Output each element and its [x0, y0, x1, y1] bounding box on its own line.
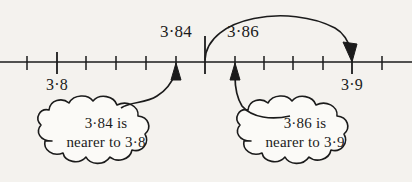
- right-callout-line2: nearer to 3·9: [265, 133, 344, 152]
- major-tick-group: [57, 36, 352, 74]
- left-callout-pointer: [121, 74, 175, 108]
- rounding-arc-arrowhead: [343, 42, 357, 62]
- left-callout-line2: nearer to 3·8: [66, 133, 145, 152]
- tick-label-3-9: 3·9: [341, 76, 363, 94]
- left-callout-arrowhead: [171, 63, 181, 80]
- right-callout-arrowhead: [230, 63, 240, 80]
- tick-label-3-8: 3·8: [46, 76, 68, 94]
- right-callout-line1: 3·86 is: [284, 115, 327, 131]
- right-callout-text: 3·86 is nearer to 3·9: [265, 114, 344, 152]
- value-label-3-84: 3·84: [160, 22, 192, 42]
- left-callout-line1: 3·84 is: [85, 115, 128, 131]
- figure-canvas: 3·84 3·86 3·8 3·9 3·84 is nearer to 3·8 …: [0, 0, 412, 182]
- value-label-3-86: 3·86: [227, 22, 259, 42]
- left-callout-text: 3·84 is nearer to 3·8: [66, 114, 145, 152]
